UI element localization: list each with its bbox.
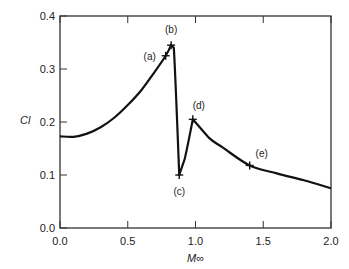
y-tick-label: 0.1 bbox=[40, 169, 55, 181]
annotation-markers: (a)(b)(c)(d)(e) bbox=[144, 24, 268, 197]
y-tick-label: 0.4 bbox=[40, 10, 55, 22]
y-tick-label: 0.2 bbox=[40, 116, 55, 128]
annotation-label: (e) bbox=[256, 148, 268, 159]
annotation-label: (c) bbox=[173, 186, 185, 197]
x-tick-label: 2.0 bbox=[323, 235, 338, 247]
x-tick-label: 0.5 bbox=[120, 235, 135, 247]
y-tick-label: 0.3 bbox=[40, 63, 55, 75]
data-curve bbox=[60, 45, 331, 188]
x-axis-ticks: 0.00.51.01.52.0 bbox=[52, 16, 338, 247]
x-tick-label: 1.0 bbox=[188, 235, 203, 247]
annotation-label: (a) bbox=[144, 51, 156, 62]
annotation-label: (b) bbox=[165, 24, 177, 35]
x-tick-label: 1.5 bbox=[256, 235, 271, 247]
annotation-label: (d) bbox=[193, 100, 205, 111]
y-axis-label: Cl bbox=[20, 114, 31, 126]
y-axis-ticks: 0.00.10.20.30.4 bbox=[40, 10, 67, 234]
x-axis-label: M∞ bbox=[187, 252, 204, 264]
cl-vs-mach-chart: 0.00.10.20.30.4 0.00.51.01.52.0 (a)(b)(c… bbox=[0, 0, 349, 269]
y-tick-label: 0.0 bbox=[40, 222, 55, 234]
x-tick-label: 0.0 bbox=[52, 235, 67, 247]
